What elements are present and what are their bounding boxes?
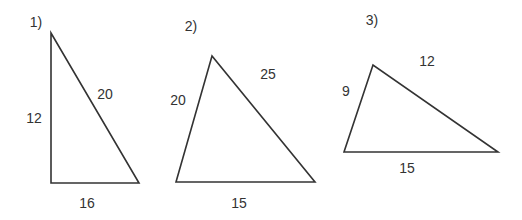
- triangle-1-number: 1): [30, 15, 42, 29]
- triangle-2: [176, 56, 315, 182]
- triangle-1: [51, 33, 139, 183]
- triangle-2-right-side-label: 25: [260, 67, 276, 81]
- triangle-2-bottom-side-label: 15: [231, 196, 247, 210]
- triangle-3-number: 3): [366, 13, 378, 27]
- triangle-1-left-side-label: 12: [26, 111, 42, 125]
- triangle-1-bottom-side-label: 16: [79, 196, 95, 210]
- triangle-3-bottom-side-label: 15: [399, 161, 415, 175]
- triangles-canvas: [0, 0, 522, 220]
- triangle-3: [344, 65, 498, 152]
- triangle-1-hypotenuse-label: 20: [97, 87, 113, 101]
- triangle-2-number: 2): [185, 19, 197, 33]
- triangle-2-left-side-label: 20: [170, 93, 186, 107]
- triangle-3-left-side-label: 9: [342, 84, 350, 98]
- triangle-3-right-side-label: 12: [419, 54, 435, 68]
